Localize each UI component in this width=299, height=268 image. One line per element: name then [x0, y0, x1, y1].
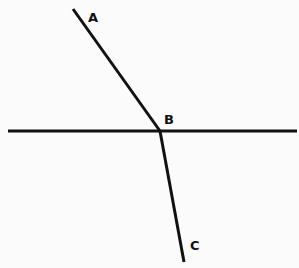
diagram-canvas: A B C: [0, 0, 299, 268]
label-b: B: [164, 112, 174, 127]
segment-ab: [73, 9, 160, 131]
label-c: C: [190, 238, 200, 253]
segment-bc: [160, 131, 184, 262]
label-a: A: [88, 10, 98, 25]
diagram-svg: A B C: [0, 0, 299, 268]
